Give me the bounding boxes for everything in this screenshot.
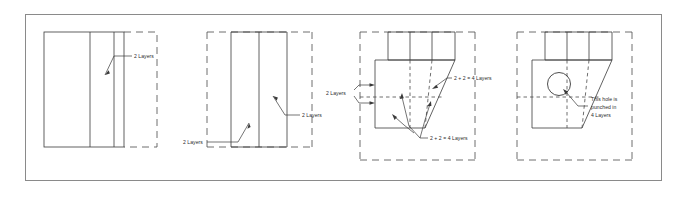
panel-4-caption-line-1: This hole is <box>591 96 618 102</box>
panel-4-caption-line-3: 4 Layers <box>591 112 611 118</box>
figure-root: 2 Layers 2 Layers 2 Layers <box>0 0 683 198</box>
panel-4-caption-line-2: punched in <box>591 104 617 110</box>
panel-2-label-2-layers-lower: 2 Layers <box>183 139 203 145</box>
panel-1-label-2-layers: 2 Layers <box>134 53 154 59</box>
outer-frame <box>26 15 662 181</box>
panel-3-label-4-layers-upper: 2 + 2 = 4 Layers <box>454 75 492 81</box>
panel-3-label-2-layers: 2 Layers <box>326 90 346 96</box>
folding-diagram-svg: 2 Layers 2 Layers 2 Layers <box>0 0 683 198</box>
panel-3-label-4-layers-lower: 2 + 2 = 4 Layers <box>430 135 468 141</box>
panel-2-label-2-layers-upper: 2 Layers <box>302 112 322 118</box>
